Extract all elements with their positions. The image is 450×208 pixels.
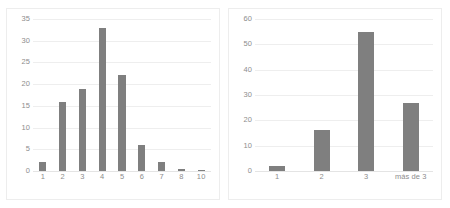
x-tick-label: 3 <box>73 173 93 181</box>
bar <box>314 130 330 171</box>
bar <box>358 32 374 171</box>
y-tick-label: 30 <box>243 91 252 99</box>
bar-slot <box>132 19 152 171</box>
x-tick-label: más de 3 <box>389 173 434 181</box>
chart-panel-left: 05101520253035 1234567810 <box>6 8 220 200</box>
x-tick-label: 2 <box>300 173 345 181</box>
x-tick-label: 4 <box>92 173 112 181</box>
y-tick-label: 10 <box>21 124 30 132</box>
plot-area-left <box>33 19 211 171</box>
y-tick-label: 20 <box>243 117 252 125</box>
bar-slot <box>33 19 53 171</box>
bar <box>178 169 185 171</box>
y-tick-label: 15 <box>21 102 30 110</box>
bar <box>158 162 165 171</box>
bar <box>198 170 205 171</box>
y-tick-label: 10 <box>243 142 252 150</box>
x-tick-label: 1 <box>33 173 53 181</box>
bar <box>269 166 285 171</box>
bar-series-left <box>33 19 211 171</box>
y-tick-label: 60 <box>243 15 252 23</box>
y-tick-label: 0 <box>26 167 30 175</box>
bar-slot <box>344 19 389 171</box>
bar-series-right <box>255 19 433 171</box>
bar-slot <box>389 19 434 171</box>
bar-slot <box>300 19 345 171</box>
bar <box>79 89 86 172</box>
x-tick-label: 7 <box>152 173 172 181</box>
y-tick-label: 35 <box>21 15 30 23</box>
y-tick-label: 40 <box>243 66 252 74</box>
plot-area-right <box>255 19 433 171</box>
bar-slot <box>152 19 172 171</box>
chart-figure: 05101520253035 1234567810 0102030405060 … <box>0 0 450 208</box>
y-tick-label: 30 <box>21 37 30 45</box>
y-tick-label: 5 <box>26 146 30 154</box>
x-tick-label: 3 <box>344 173 389 181</box>
y-tick-label: 0 <box>248 167 252 175</box>
y-axis-left: 05101520253035 <box>7 19 33 171</box>
plot-wrap-left: 05101520253035 1234567810 <box>7 9 219 199</box>
y-tick-label: 20 <box>21 80 30 88</box>
bar-slot <box>92 19 112 171</box>
bar <box>59 102 66 171</box>
bar-slot <box>73 19 93 171</box>
x-tick-label: 10 <box>191 173 211 181</box>
bar <box>118 75 125 171</box>
bar-slot <box>171 19 191 171</box>
bar-slot <box>255 19 300 171</box>
x-tick-label: 1 <box>255 173 300 181</box>
x-tick-label: 2 <box>53 173 73 181</box>
bar <box>403 103 419 171</box>
plot-wrap-right: 0102030405060 123más de 3 <box>229 9 441 199</box>
bar-slot <box>53 19 73 171</box>
y-axis-right: 0102030405060 <box>229 19 255 171</box>
x-tick-label: 5 <box>112 173 132 181</box>
y-tick-label: 25 <box>21 59 30 67</box>
bar-slot <box>191 19 211 171</box>
bar <box>138 145 145 171</box>
bar-slot <box>112 19 132 171</box>
bar <box>99 28 106 171</box>
x-axis-left: 1234567810 <box>33 173 211 193</box>
x-tick-label: 6 <box>132 173 152 181</box>
x-axis-right: 123más de 3 <box>255 173 433 193</box>
bar <box>39 162 46 171</box>
chart-panel-right: 0102030405060 123más de 3 <box>228 8 442 200</box>
y-tick-label: 50 <box>243 41 252 49</box>
x-tick-label: 8 <box>171 173 191 181</box>
